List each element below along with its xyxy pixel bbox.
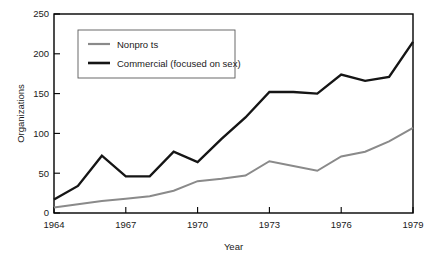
line-chart: 0 50 100 150 200 250 1964 1967 1970 1973… [0,0,431,260]
x-axis-ticks [54,207,413,213]
legend-label-nonprofits: Nonpro ts [117,39,158,50]
y-tick-label-200: 200 [33,48,49,59]
legend-label-commercial: Commercial (focused on sex) [117,58,241,69]
legend-box [78,30,235,78]
y-tick-label-50: 50 [38,168,49,179]
x-tick-label-1964: 1964 [43,219,64,230]
y-axis-tick-labels: 0 50 100 150 200 250 [33,8,49,218]
y-tick-label-0: 0 [44,207,49,218]
x-axis-title: Year [224,241,243,252]
x-tick-label-1970: 1970 [187,219,208,230]
y-tick-label-100: 100 [33,128,49,139]
x-tick-label-1967: 1967 [115,219,136,230]
chart-legend: Nonpro ts Commercial (focused on sex) [78,30,241,78]
x-axis-tick-labels: 1964 1967 1970 1973 1976 1979 [43,219,423,230]
y-tick-label-150: 150 [33,88,49,99]
y-axis-title: Organizations [15,84,26,143]
y-tick-label-250: 250 [33,8,49,19]
x-tick-label-1979: 1979 [402,219,423,230]
series-line-nonprofits [54,128,413,208]
x-tick-label-1976: 1976 [331,219,352,230]
x-tick-label-1973: 1973 [259,219,280,230]
y-axis-ticks [54,14,60,213]
chart-figure: 0 50 100 150 200 250 1964 1967 1970 1973… [0,0,431,260]
